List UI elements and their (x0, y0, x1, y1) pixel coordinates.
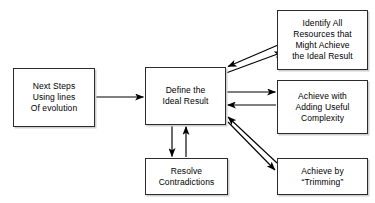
node-next-steps[interactable]: Next Steps Using lines Of evolution (13, 68, 95, 127)
node-achieve-with-adding-useful-complexity[interactable]: Achieve with Adding Useful Complexity (277, 80, 368, 134)
edge-define-to-trimming (228, 122, 275, 170)
diagram-canvas: Next Steps Using lines Of evolution Defi… (0, 0, 375, 203)
edge-trimming-to-define (228, 117, 277, 163)
node-achieve-by-trimming[interactable]: Achieve by “Trimming” (277, 158, 368, 195)
node-define-the-ideal-result[interactable]: Define the Ideal Result (145, 67, 226, 125)
node-resolve-contradictions[interactable]: Resolve Contradictions (145, 158, 228, 195)
node-identify-all-resources[interactable]: Identify All Resources that Might Achiev… (277, 10, 368, 70)
